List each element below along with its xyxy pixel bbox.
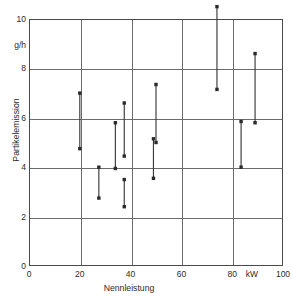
y-axis-unit-label: g/h (0, 41, 26, 50)
data-point-marker (215, 5, 218, 8)
x-axis-unit-label: kW (240, 269, 264, 279)
x-axis-tick-label: 100 (266, 269, 292, 279)
gridline-horizontal (30, 119, 282, 120)
x-axis-tick-label: 20 (63, 269, 97, 279)
y-axis-title: Partikelemission (11, 71, 21, 189)
x-axis-tick-label: 40 (114, 269, 148, 279)
y-axis-tick-label: 2 (0, 212, 26, 221)
gridline-horizontal (30, 218, 282, 219)
y-axis-tick-label: 10 (0, 15, 26, 24)
x-axis-title: Nennleistung (29, 283, 229, 293)
particulate-emission-chart: 0246810 g/h Partikelemission 02040608010… (0, 0, 292, 301)
gridline-vertical (81, 20, 82, 265)
gridline-horizontal (30, 69, 282, 70)
gridline-vertical (132, 20, 133, 265)
gridline-vertical (182, 20, 183, 265)
gridline-horizontal (30, 168, 282, 169)
x-axis-tick-label: 60 (164, 269, 198, 279)
plot-area (29, 19, 283, 266)
gridline-vertical (233, 20, 234, 265)
x-axis-tick-label: 0 (12, 269, 46, 279)
